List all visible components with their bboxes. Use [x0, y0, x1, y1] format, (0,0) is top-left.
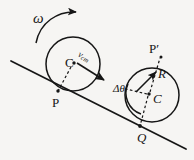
physics-diagram-rolling-disc: ω C vcm P P′ R C Δθ Q [0, 0, 194, 160]
right-contact-point-dot [138, 124, 142, 128]
rotation-angle-label: Δθ [113, 83, 125, 94]
angular-velocity-label: ω [33, 11, 44, 26]
right-contact-point-label: Q [137, 131, 146, 144]
left-contact-point-label: P [52, 96, 59, 109]
left-contact-point-dot [56, 89, 59, 92]
rotated-point-dot [160, 56, 163, 59]
radius-vector-label: R [158, 67, 166, 80]
right-disc-center-label: C [153, 92, 162, 105]
rotated-point-label: P′ [149, 42, 159, 55]
left-disc-center-label: C [65, 56, 74, 69]
right-disc-center-dot [147, 92, 150, 95]
